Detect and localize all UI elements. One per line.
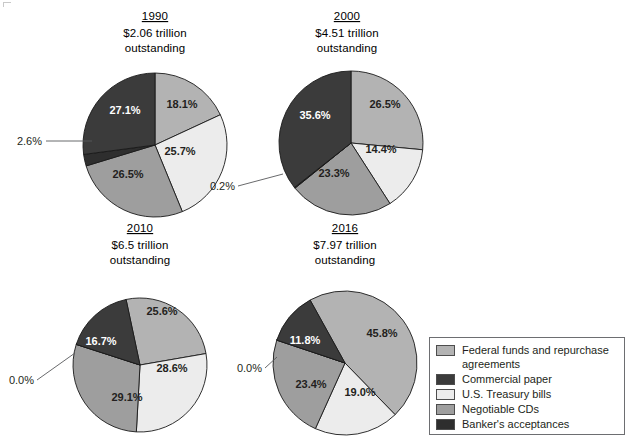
label-2016-negotiable-cds: 23.4% (295, 378, 326, 390)
panel-2010-outstanding: outstanding (110, 254, 171, 266)
panel-2016: 2016 $7.97 trillion outstanding 45.8% 19… (237, 222, 417, 435)
legend-swatch-bankers-acceptances (436, 419, 455, 430)
legend-item-commercial-paper[interactable]: Commercial paper (436, 372, 618, 386)
legend-swatch-treasury-bills (436, 389, 455, 400)
slice-2000-federal-funds[interactable] (351, 71, 423, 150)
legend-item-treasury-bills[interactable]: U.S. Treasury bills (436, 387, 618, 401)
callout-2010-bankers-acceptances: 0.0% (9, 374, 34, 386)
legend-label-negotiable-cds: Negotiable CDs (462, 402, 539, 416)
panel-2010: 2010 $6.5 trillion outstanding 25.6% 28.… (9, 222, 207, 432)
panel-2016-total: $7.97 trillion (313, 239, 376, 251)
panel-2000-total: $4.51 trillion (315, 27, 378, 39)
legend-swatch-commercial-paper (436, 374, 455, 385)
panel-1990: 1990 $2.06 trillion outstanding 18.1% 25… (17, 10, 227, 217)
panel-2000: 2000 $4.51 trillion outstanding 26.5% 14… (210, 10, 423, 215)
pie-chart-figure: 1990 $2.06 trillion outstanding 18.1% 25… (0, 0, 629, 438)
legend-item-bankers-acceptances[interactable]: Banker's acceptances (436, 417, 618, 431)
label-2000-negotiable-cds: 23.3% (318, 167, 349, 179)
leader-line-2000 (238, 174, 283, 186)
label-2000-treasury-bills: 14.4% (365, 143, 396, 155)
legend-swatch-federal-funds (436, 345, 455, 356)
callout-2016-bankers-acceptances: 0.0% (237, 362, 262, 374)
legend-swatch-negotiable-cds (436, 404, 455, 415)
callout-2000-bankers-acceptances: 0.2% (210, 180, 235, 192)
label-1990-treasury-bills: 25.7% (164, 145, 195, 157)
legend: Federal funds and repurchase agreements … (429, 337, 625, 435)
label-1990-negotiable-cds: 26.5% (112, 168, 143, 180)
label-1990-commercial-paper: 27.1% (109, 104, 140, 116)
panel-2016-pie (273, 291, 417, 435)
label-2016-federal-funds: 45.8% (366, 327, 397, 339)
panel-2000-year: 2000 (334, 10, 360, 22)
label-1990-federal-funds: 18.1% (166, 98, 197, 110)
legend-label-commercial-paper: Commercial paper (462, 372, 552, 386)
label-2000-commercial-paper: 35.6% (299, 109, 330, 121)
panel-2016-year: 2016 (332, 222, 358, 234)
label-2016-commercial-paper: 11.8% (290, 334, 321, 346)
legend-item-negotiable-cds[interactable]: Negotiable CDs (436, 402, 618, 416)
label-2010-federal-funds: 25.6% (146, 305, 177, 317)
legend-label-federal-funds: Federal funds and repurchase agreements (462, 343, 609, 371)
panel-1990-pie (83, 73, 227, 217)
label-2010-negotiable-cds: 29.1% (111, 391, 142, 403)
label-2016-treasury-bills: 19.0% (344, 386, 375, 398)
label-2000-federal-funds: 26.5% (369, 98, 400, 110)
panel-2016-outstanding: outstanding (315, 254, 376, 266)
panel-1990-outstanding: outstanding (125, 42, 186, 54)
panel-1990-total: $2.06 trillion (123, 27, 186, 39)
panel-2010-year: 2010 (127, 222, 153, 234)
panel-1990-year: 1990 (142, 10, 168, 22)
legend-item-federal-funds[interactable]: Federal funds and repurchase agreements (436, 343, 618, 371)
panel-2000-outstanding: outstanding (317, 42, 378, 54)
legend-label-bankers-acceptances: Banker's acceptances (462, 417, 569, 431)
callout-1990-bankers-acceptances: 2.6% (17, 135, 42, 147)
panel-2000-pie (279, 71, 423, 215)
label-2010-treasury-bills: 28.6% (156, 362, 187, 374)
label-2010-commercial-paper: 16.7% (85, 335, 116, 347)
legend-label-treasury-bills: U.S. Treasury bills (462, 387, 551, 401)
panel-2010-total: $6.5 trillion (112, 239, 169, 251)
leader-line-2010 (37, 353, 75, 380)
